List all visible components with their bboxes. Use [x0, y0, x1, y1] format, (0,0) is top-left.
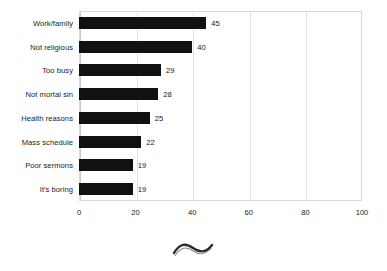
bar-segment [79, 17, 206, 29]
bar-segment [79, 112, 150, 124]
bar-row: Too busy 29 [0, 59, 387, 83]
category-label: It's boring [40, 185, 73, 194]
bar-value-label: 28 [163, 90, 171, 99]
bar-row: Mass schedule 22 [0, 130, 387, 154]
category-label: Not religious [30, 42, 73, 51]
bar-track: 29 [79, 59, 387, 83]
bar-value-label: 40 [197, 42, 205, 51]
category-label: Mass schedule [22, 137, 73, 146]
bar-track: 22 [79, 130, 387, 154]
category-label: Health reasons [21, 113, 73, 122]
x-tick-label: 0 [77, 208, 81, 217]
bar-rows: Work/family 45 Not religious 40 Too busy… [0, 11, 387, 201]
x-tick-label: 40 [188, 208, 196, 217]
bar-track: 28 [79, 82, 387, 106]
category-label: Not mortal sin [25, 90, 73, 99]
bar-value-label: 19 [138, 161, 146, 170]
bar-row: Work/family 45 [0, 11, 387, 35]
bar-row: It's boring 19 [0, 177, 387, 201]
bar-segment [79, 136, 141, 148]
bar-track: 25 [79, 106, 387, 130]
category-label: Work/family [33, 18, 73, 27]
bar-row: Not religious 40 [0, 35, 387, 59]
x-tick-label: 80 [301, 208, 309, 217]
bar-track: 45 [79, 11, 387, 35]
x-axis: 0 20 40 60 80 100 [79, 201, 362, 221]
bar-value-label: 45 [211, 18, 219, 27]
x-tick-label: 60 [245, 208, 253, 217]
category-label: Poor sermons [25, 161, 73, 170]
bar-row: Not mortal sin 28 [0, 82, 387, 106]
bar-track: 40 [79, 35, 387, 59]
category-label: Too busy [42, 66, 73, 75]
bar-track: 19 [79, 177, 387, 201]
bar-segment [79, 159, 133, 171]
bar-value-label: 29 [166, 66, 174, 75]
x-tick-label: 100 [356, 208, 369, 217]
bar-track: 19 [79, 154, 387, 178]
bar-value-label: 25 [155, 113, 163, 122]
bar-segment [79, 183, 133, 195]
tilde-mark-icon [171, 240, 215, 262]
bar-chart-figure: Work/family 45 Not religious 40 Too busy… [0, 0, 387, 271]
bar-row: Health reasons 25 [0, 106, 387, 130]
x-tick-label: 20 [131, 208, 139, 217]
bar-segment [79, 88, 158, 100]
bar-value-label: 22 [146, 137, 154, 146]
bar-value-label: 19 [138, 185, 146, 194]
bar-row: Poor sermons 19 [0, 154, 387, 178]
bar-segment [79, 64, 161, 76]
bar-segment [79, 41, 192, 53]
